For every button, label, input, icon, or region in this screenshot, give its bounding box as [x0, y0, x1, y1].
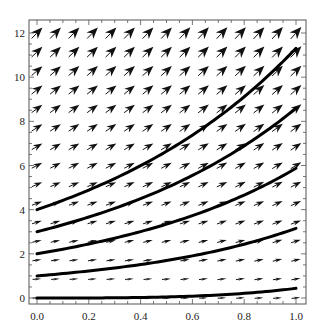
arrow-tail: [143, 166, 148, 169]
arrow-tail: [291, 128, 296, 132]
arrow-tail: [143, 222, 148, 223]
arrow-head-icon: [33, 143, 43, 150]
x-tick-label: 0.2: [82, 310, 96, 322]
arrow-tail: [235, 90, 240, 94]
arrow-head-icon: [107, 163, 116, 170]
arrow-tail: [106, 52, 111, 57]
arrow-tail: [88, 260, 92, 261]
arrow-tail: [272, 128, 277, 132]
arrow-tail: [198, 90, 203, 94]
arrow-tail: [198, 166, 203, 169]
arrow-head-icon: [291, 124, 301, 133]
arrow-tail: [161, 52, 166, 57]
arrow-tail: [69, 185, 74, 187]
arrow-head-icon: [180, 124, 190, 132]
arrow-tail: [180, 166, 185, 169]
arrow-tail: [198, 109, 203, 113]
arrow-tail: [106, 166, 111, 169]
arrow-tail: [125, 222, 130, 223]
arrow-tail: [124, 166, 129, 169]
arrow-tail: [161, 128, 166, 131]
arrow-tail: [87, 203, 92, 205]
arrow-tail: [32, 71, 37, 75]
arrow-head-icon: [88, 124, 98, 132]
arrow-tail: [272, 203, 277, 205]
arrow-tail: [180, 260, 184, 261]
arrow-tail: [180, 222, 185, 224]
arrow-tail: [69, 52, 74, 57]
arrow-tail: [143, 260, 147, 261]
arrow-tail: [291, 147, 296, 150]
arrow-head-icon: [199, 143, 209, 151]
arrow-tail: [161, 147, 166, 150]
arrow-head-icon: [69, 124, 79, 132]
arrow-tail: [291, 185, 296, 188]
arrow-tail: [235, 52, 240, 57]
arrow-head-icon: [236, 124, 246, 133]
arrow-tail: [217, 33, 222, 38]
x-tick-label: 0.4: [134, 310, 148, 322]
arrow-tail: [69, 260, 73, 261]
arrow-tail: [69, 109, 74, 113]
arrow-tail: [50, 166, 55, 169]
arrow-tail: [50, 71, 55, 75]
arrow-tail: [143, 241, 148, 242]
arrow-tail: [162, 241, 167, 242]
arrow-tail: [199, 222, 204, 224]
arrow-tail: [180, 33, 185, 38]
arrow-tail: [124, 109, 129, 113]
arrow-head-icon: [51, 143, 61, 150]
arrow-tail: [106, 128, 111, 131]
vector-field-chart: 0.00.20.40.60.81.0 024681012: [0, 0, 322, 336]
y-tick-label: 0: [20, 292, 26, 304]
arrow-head-icon: [236, 163, 245, 170]
x-tick-label: 0.6: [186, 310, 200, 322]
arrow-head-icon: [254, 143, 264, 151]
arrow-head-icon: [106, 85, 117, 95]
arrow-tail: [198, 185, 203, 187]
arrow-head-icon: [235, 85, 246, 95]
arrow-tail: [291, 241, 296, 242]
arrow-head-icon: [125, 105, 135, 114]
arrow-tail: [87, 33, 92, 38]
arrow-tail: [235, 109, 240, 113]
arrow-tail: [32, 52, 37, 57]
arrow-tail: [32, 128, 37, 131]
arrow-tail: [32, 90, 37, 94]
arrow-tail: [161, 90, 166, 94]
arrow-head-icon: [124, 85, 135, 95]
arrow-tail: [32, 222, 37, 223]
arrow-head-icon: [180, 85, 191, 95]
arrow-head-icon: [162, 105, 172, 114]
arrow-tail: [235, 185, 240, 187]
arrow-tail: [217, 128, 222, 132]
arrow-head-icon: [125, 143, 135, 151]
arrow-tail: [217, 52, 222, 57]
arrow-tail: [143, 185, 148, 187]
arrow-tail: [124, 52, 129, 57]
arrow-tail: [50, 147, 55, 150]
arrow-head-icon: [254, 124, 264, 133]
arrow-head-icon: [272, 104, 283, 114]
arrow-head-icon: [180, 105, 190, 114]
arrow-tail: [254, 260, 258, 261]
arrow-tail: [87, 109, 92, 113]
arrow-tail: [198, 33, 203, 38]
arrow-head-icon: [69, 85, 80, 95]
arrow-tail: [254, 279, 258, 280]
arrow-tail: [217, 166, 222, 169]
arrow-head-icon: [237, 182, 246, 188]
arrow-tail: [254, 71, 259, 76]
arrow-head-icon: [198, 105, 208, 114]
arrow-head-icon: [70, 163, 79, 170]
arrow-head-icon: [52, 163, 61, 170]
arrow-tail: [272, 185, 277, 188]
arrow-head-icon: [274, 182, 283, 189]
arrow-tail: [272, 33, 277, 39]
arrow-head-icon: [69, 105, 79, 114]
arrow-head-icon: [198, 85, 209, 95]
arrow-tail: [161, 71, 166, 76]
arrow-tail: [32, 203, 37, 205]
arrow-tail: [217, 222, 222, 224]
arrow-tail: [51, 241, 55, 242]
